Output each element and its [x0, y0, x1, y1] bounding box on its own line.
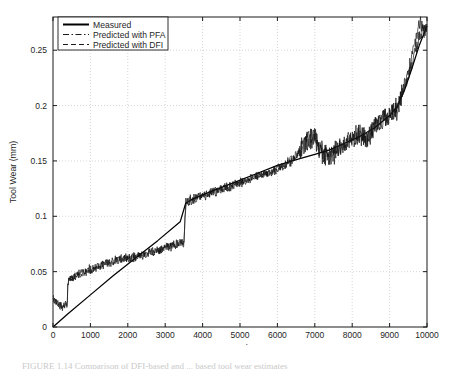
plot-background: [53, 17, 427, 327]
y-tick-label: 0.15: [30, 156, 47, 166]
x-tick-label: 3000: [156, 330, 175, 340]
figure-container: 0100020003000400050006000700080009000100…: [0, 0, 454, 369]
y-axis-title: Tool Wear (mm): [8, 141, 18, 203]
y-tick-label: 0.25: [30, 45, 47, 55]
y-tick-label: 0.05: [30, 267, 47, 277]
x-tick-label: 6000: [268, 330, 287, 340]
x-tick-label: 0: [51, 330, 56, 340]
x-tick-label: 2000: [118, 330, 137, 340]
x-tick-label: 1000: [81, 330, 100, 340]
chart-plot-area: 0100020003000400050006000700080009000100…: [0, 0, 454, 345]
y-tick-label: 0.1: [35, 211, 47, 221]
x-axis-title: Samples: [223, 343, 258, 345]
legend-label-2: Predicted with PFA: [93, 30, 166, 40]
x-tick-label: 5000: [231, 330, 250, 340]
x-tick-label: 9000: [380, 330, 399, 340]
x-tick-label: 10000: [415, 330, 439, 340]
legend-label-1: Measured: [93, 20, 131, 30]
y-tick-label: 0: [42, 322, 47, 332]
figure-caption: FIGURE 1.14 Comparison of DFI-based and …: [22, 361, 442, 369]
y-tick-label: 0.2: [35, 101, 47, 111]
x-tick-label: 8000: [343, 330, 362, 340]
x-tick-label: 4000: [193, 330, 212, 340]
chart-legend: MeasuredPredicted with PFAPredicted with…: [58, 17, 168, 50]
legend-label-3: Predicted with DFI: [93, 40, 163, 50]
tool-wear-line-chart: 0100020003000400050006000700080009000100…: [0, 0, 454, 345]
x-tick-label: 7000: [305, 330, 324, 340]
